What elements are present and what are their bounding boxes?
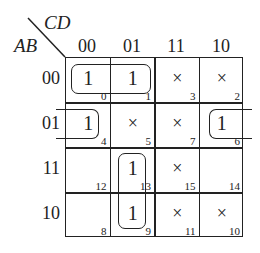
cell-value: × xyxy=(155,158,200,179)
minterm-index: 3 xyxy=(190,90,196,102)
group-loop-m4-left-wrap xyxy=(56,109,99,139)
cell-value: × xyxy=(200,68,245,89)
col-header-00: 00 xyxy=(65,36,109,57)
minterm-index: 9 xyxy=(146,225,152,237)
cell-m7: × 7 xyxy=(155,103,200,148)
col-header-01: 01 xyxy=(110,36,154,57)
cell-value: × xyxy=(155,113,200,134)
group-loop-m0-m1 xyxy=(71,64,151,94)
cell-m15: × 15 xyxy=(155,148,200,193)
row-variables-label: AB xyxy=(14,35,37,57)
row-header-01: 01 xyxy=(20,113,60,134)
cell-m3: × 3 xyxy=(155,58,200,103)
col-header-10: 10 xyxy=(199,36,243,57)
cell-value: × xyxy=(155,203,200,224)
row-header-11: 11 xyxy=(20,158,60,179)
cell-m12: 12 xyxy=(66,148,111,193)
cell-m10: × 10 xyxy=(200,193,245,238)
minterm-index: 15 xyxy=(185,180,196,192)
group-loop-m13-m9 xyxy=(118,153,146,229)
minterm-index: 7 xyxy=(190,135,196,147)
minterm-index: 11 xyxy=(185,225,196,237)
minterm-index: 10 xyxy=(229,225,240,237)
row-header-00: 00 xyxy=(20,68,60,89)
cell-m2: × 2 xyxy=(200,58,245,103)
col-variables-label: CD xyxy=(44,12,70,34)
minterm-index: 2 xyxy=(235,90,241,102)
minterm-index: 14 xyxy=(229,180,240,192)
cell-m8: 8 xyxy=(66,193,111,238)
cell-m5: × 5 xyxy=(111,103,156,148)
cell-value: × xyxy=(200,203,245,224)
group-loop-m6-right-wrap xyxy=(209,109,252,139)
minterm-index: 5 xyxy=(146,135,152,147)
minterm-index: 8 xyxy=(101,225,107,237)
row-header-10: 10 xyxy=(20,203,60,224)
col-header-11: 11 xyxy=(154,36,198,57)
minterm-index: 12 xyxy=(96,180,107,192)
cell-m14: 14 xyxy=(200,148,245,193)
cell-m11: × 11 xyxy=(155,193,200,238)
cell-value: × xyxy=(155,68,200,89)
minterm-index: 4 xyxy=(101,135,107,147)
cell-value: × xyxy=(111,113,156,134)
karnaugh-map-grid: 1 0 1 1 × 3 × 2 1 4 × 5 × 7 1 6 12 1 13 … xyxy=(65,57,243,237)
